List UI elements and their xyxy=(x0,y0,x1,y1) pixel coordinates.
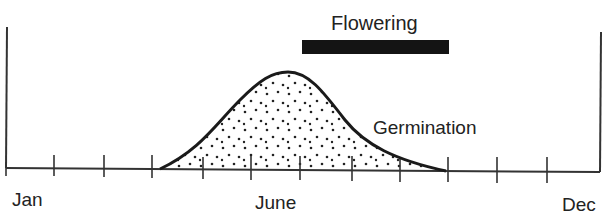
germination-label: Germination xyxy=(373,118,477,137)
phenology-diagram xyxy=(0,0,610,220)
right-axis xyxy=(600,32,601,172)
dec-label: Dec xyxy=(562,195,596,214)
jan-label: Jan xyxy=(12,190,43,209)
flowering-bar xyxy=(302,40,449,54)
flowering-label: Flowering xyxy=(331,13,418,33)
june-label: June xyxy=(255,193,296,212)
left-axis xyxy=(6,27,7,168)
